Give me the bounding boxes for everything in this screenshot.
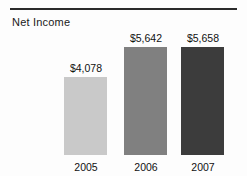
- bar-value-label-2005: $4,078: [57, 62, 115, 74]
- bar-group-2005: $4,078 2005: [57, 0, 115, 176]
- category-label-2005: 2005: [57, 161, 115, 173]
- bar-group-2006: $5,642 2006: [117, 0, 175, 176]
- bar-2006[interactable]: [124, 47, 167, 155]
- net-income-chart-figure: Net Income $4,078 2005 $5,642 2006 $5,65…: [0, 0, 247, 176]
- plot-area: $4,078 2005 $5,642 2006 $5,658 2007: [0, 0, 247, 176]
- bar-group-2007: $5,658 2007: [174, 0, 232, 176]
- bar-value-label-2006: $5,642: [117, 32, 175, 44]
- bar-value-label-2007: $5,658: [174, 32, 232, 44]
- category-label-2007: 2007: [174, 161, 232, 173]
- category-label-2006: 2006: [117, 161, 175, 173]
- bar-2007[interactable]: [181, 47, 224, 155]
- bar-2005[interactable]: [64, 77, 107, 155]
